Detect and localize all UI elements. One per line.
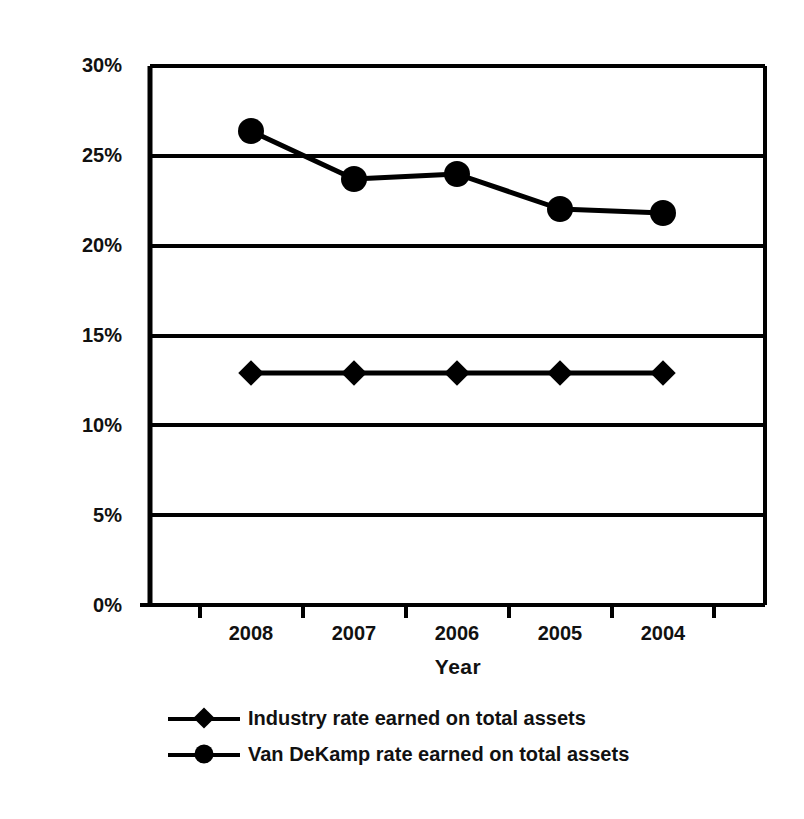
legend-swatch-industry <box>168 708 240 728</box>
data-point-industry-2004 <box>650 360 675 385</box>
x-tick-label-2007: 2007 <box>304 622 404 645</box>
x-tick-label-2005: 2005 <box>510 622 610 645</box>
data-point-van-dekamp-2007 <box>341 166 367 192</box>
data-point-van-dekamp-2004 <box>650 200 676 226</box>
data-point-van-dekamp-2006 <box>444 161 470 187</box>
data-point-industry-2008 <box>238 360 263 385</box>
x-tick-label-2006: 2006 <box>407 622 507 645</box>
circle-marker-icon <box>195 745 214 764</box>
data-point-industry-2005 <box>547 360 572 385</box>
legend-item-van-dekamp: Van DeKamp rate earned on total assets <box>150 736 766 772</box>
legend-item-industry: Industry rate earned on total assets <box>150 700 766 736</box>
series-van-dekamp <box>238 118 676 226</box>
series-industry <box>238 360 675 385</box>
chart-plot-svg <box>0 0 804 819</box>
x-axis-title: Year <box>150 655 766 679</box>
chart-container: Rate Earned on Total Assets 30% 25% 20% … <box>0 0 804 819</box>
chart-legend: Industry rate earned on total assets Van… <box>150 700 766 772</box>
data-point-industry-2007 <box>341 360 366 385</box>
diamond-marker-icon <box>193 707 214 728</box>
data-point-industry-2006 <box>444 360 469 385</box>
x-tick-label-2004: 2004 <box>613 622 713 645</box>
legend-label-van-dekamp: Van DeKamp rate earned on total assets <box>248 743 629 766</box>
x-tick-label-2008: 2008 <box>201 622 301 645</box>
legend-swatch-van-dekamp <box>168 744 240 764</box>
data-point-van-dekamp-2005 <box>547 196 573 222</box>
data-point-van-dekamp-2008 <box>238 118 264 144</box>
legend-label-industry: Industry rate earned on total assets <box>248 707 586 730</box>
